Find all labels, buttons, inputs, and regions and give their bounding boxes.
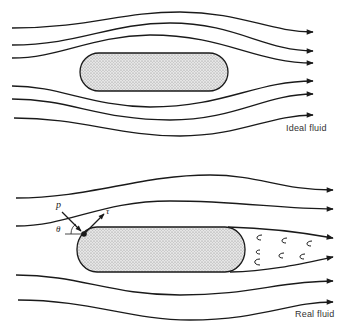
shear-symbol: τ (106, 206, 109, 216)
eddy (300, 254, 305, 259)
surface-point (81, 231, 87, 237)
eddy (307, 241, 312, 246)
eddy (256, 250, 260, 254)
eddy (279, 253, 284, 258)
real-fluid-label: Real fluid (295, 309, 335, 319)
streamline (12, 12, 313, 32)
pressure-arrow (62, 212, 81, 231)
eddy (282, 238, 287, 243)
streamline (14, 115, 313, 136)
angle-symbol: θ (56, 224, 60, 234)
eddy (255, 259, 260, 265)
eddy (257, 235, 262, 240)
streamline (16, 275, 333, 295)
pressure-symbol: p (56, 199, 61, 210)
wake-boundary-lower (230, 257, 333, 272)
real-body (77, 227, 245, 272)
streamline (12, 23, 313, 51)
ideal-fluid-panel (12, 12, 313, 136)
wake-boundary-upper (228, 227, 333, 238)
real-fluid-panel (16, 175, 333, 320)
wake-eddies (255, 235, 312, 265)
streamline (16, 175, 333, 198)
ideal-body (80, 53, 228, 91)
ideal-fluid-label: Ideal fluid (286, 123, 327, 133)
flow-diagram (0, 0, 347, 332)
streamline (18, 300, 333, 320)
